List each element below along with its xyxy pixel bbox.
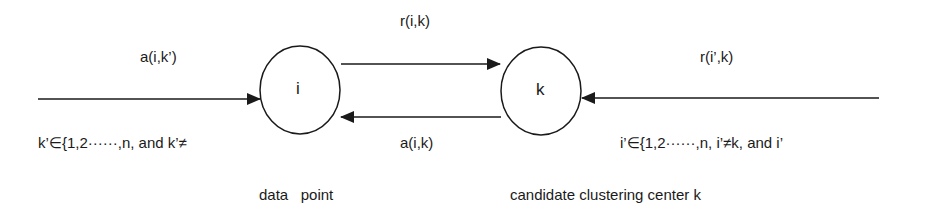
node-i-caption: data point: [259, 186, 333, 204]
diagram-canvas: [0, 0, 933, 222]
edge-i-to-k-label: r(i,k): [400, 12, 430, 30]
node-k-label: k: [536, 81, 545, 99]
node-i-label: i: [296, 80, 300, 98]
node-k-caption: candidate clustering center k: [510, 186, 701, 204]
edge-incoming-to-k-label: r(i’,k): [700, 48, 733, 66]
edge-incoming-to-i-label: a(i,k’): [140, 48, 177, 66]
edge-k-to-i-label: a(i,k): [400, 134, 433, 152]
edge-incoming-to-i-sublabel: k’∈{1,2······,n, and k’≠: [38, 134, 187, 152]
edge-incoming-to-k-sublabel: i’∈{1,2······,n, i’≠k, and i’: [620, 134, 783, 152]
node-i-circle: [260, 46, 340, 134]
